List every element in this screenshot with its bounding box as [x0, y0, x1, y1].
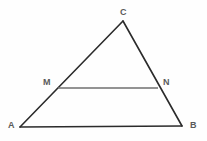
vertex-label-n: N — [163, 78, 170, 87]
triangle-diagram-svg — [0, 0, 207, 141]
geometry-figure: C M N A B — [0, 0, 207, 141]
segment-ab — [20, 126, 182, 127]
segment-cb — [123, 21, 182, 126]
vertex-label-c: C — [120, 8, 127, 17]
triangle-outline — [20, 21, 182, 127]
vertex-label-m: M — [43, 78, 51, 87]
vertex-label-a: A — [8, 121, 15, 130]
vertex-label-b: B — [190, 121, 197, 130]
segment-ac — [20, 21, 123, 127]
